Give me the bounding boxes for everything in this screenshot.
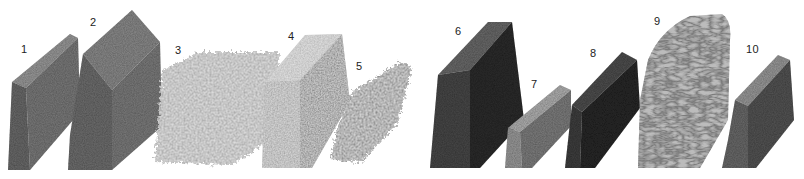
sample-8-block xyxy=(565,52,640,168)
sample-label-1: 1 xyxy=(21,44,28,55)
figure-canvas xyxy=(0,0,804,179)
sample-3-block xyxy=(155,52,280,165)
sample-10-block xyxy=(722,55,794,168)
sample-2-block xyxy=(68,10,162,170)
sample-label-3: 3 xyxy=(175,45,182,56)
sample-label-2: 2 xyxy=(90,17,97,28)
sample-label-5: 5 xyxy=(356,61,363,72)
sample-label-10: 10 xyxy=(746,44,759,55)
sample-9-block xyxy=(638,14,730,168)
sample-label-9: 9 xyxy=(654,16,661,27)
sample-blocks-figure: 1 2 3 4 5 6 7 8 9 10 xyxy=(0,0,804,179)
sample-label-8: 8 xyxy=(590,48,597,59)
sample-label-6: 6 xyxy=(455,26,462,37)
sample-label-4: 4 xyxy=(288,31,295,42)
sample-label-7: 7 xyxy=(531,79,538,90)
